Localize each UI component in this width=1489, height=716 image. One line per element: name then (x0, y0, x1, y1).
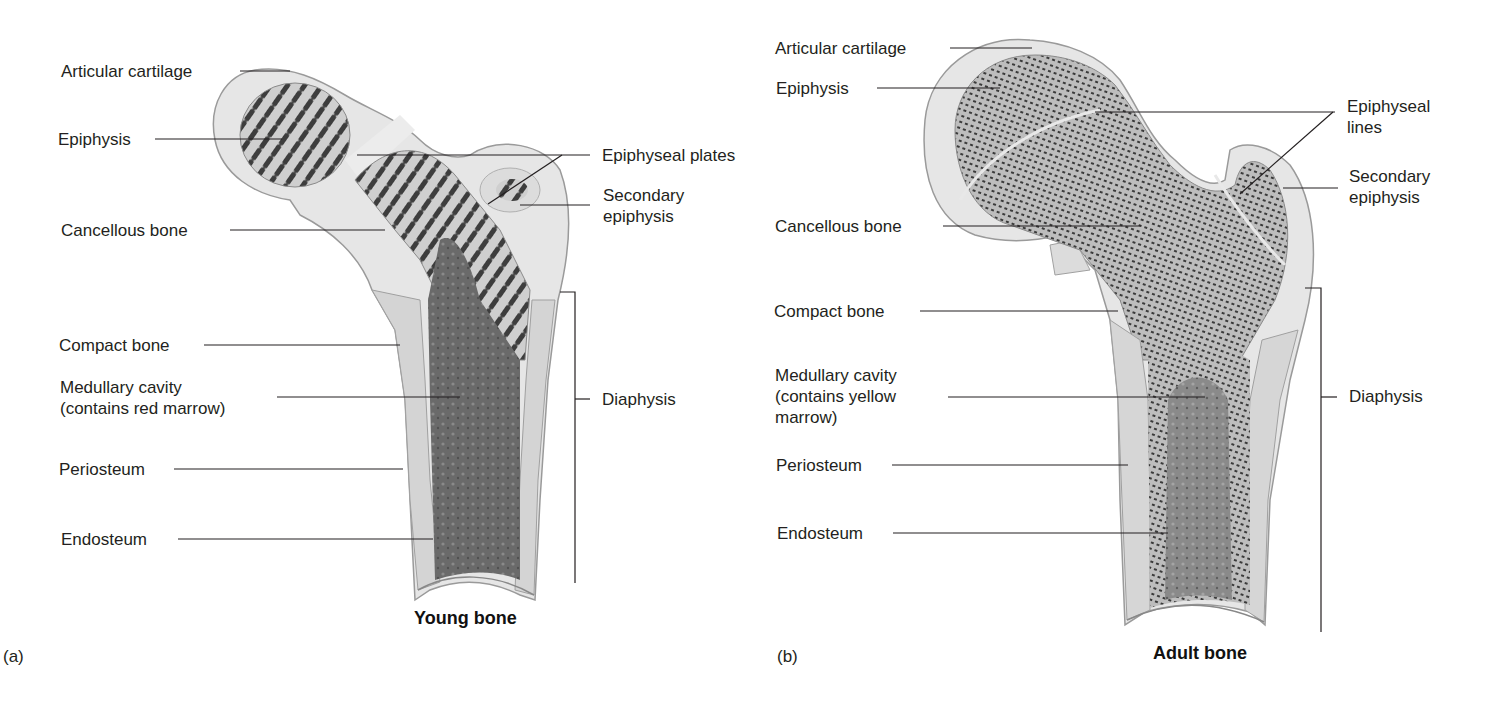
label-compact-bone-b: Compact bone (774, 301, 885, 322)
young-bone-illustration (213, 69, 568, 600)
label-epiphyseal-lines-b: Epiphyseal lines (1347, 96, 1430, 138)
bone-illustrations (0, 0, 1489, 716)
caption-young-bone: Young bone (414, 608, 517, 629)
label-articular-cartilage-a: Articular cartilage (61, 61, 192, 82)
label-diaphysis-a: Diaphysis (602, 389, 676, 410)
adult-bone-illustration (924, 40, 1313, 625)
label-epiphysis-a: Epiphysis (58, 129, 131, 150)
label-cancellous-bone-a: Cancellous bone (61, 220, 188, 241)
panel-label-a: (a) (3, 647, 24, 667)
label-cancellous-bone-b: Cancellous bone (775, 216, 902, 237)
label-secondary-epiphysis-b: Secondary epiphysis (1349, 166, 1430, 208)
label-medullary-cavity-a: Medullary cavity (contains red marrow) (60, 377, 225, 419)
label-epiphyseal-plates-a: Epiphyseal plates (602, 145, 735, 166)
caption-adult-bone: Adult bone (1153, 643, 1247, 664)
label-secondary-epiphysis-a: Secondary epiphysis (603, 185, 684, 227)
bone-structure-figure: Articular cartilage Epiphysis Cancellous… (0, 0, 1489, 716)
label-endosteum-b: Endosteum (777, 523, 863, 544)
label-compact-bone-a: Compact bone (59, 335, 170, 356)
label-medullary-cavity-b: Medullary cavity (contains yellow marrow… (775, 365, 897, 428)
label-periosteum-a: Periosteum (59, 459, 145, 480)
label-diaphysis-b: Diaphysis (1349, 386, 1423, 407)
label-periosteum-b: Periosteum (776, 455, 862, 476)
label-epiphysis-b: Epiphysis (776, 78, 849, 99)
panel-label-b: (b) (777, 647, 798, 667)
label-endosteum-a: Endosteum (61, 529, 147, 550)
label-articular-cartilage-b: Articular cartilage (775, 38, 906, 59)
